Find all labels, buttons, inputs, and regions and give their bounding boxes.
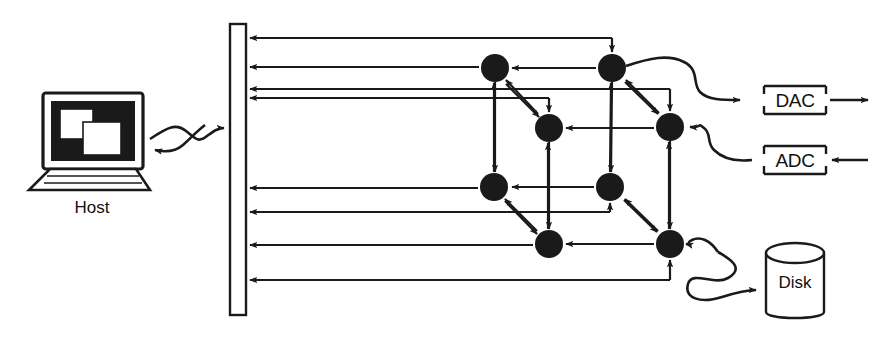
mesh-node-n5 (480, 173, 508, 201)
mesh-edges-bottom (505, 187, 658, 244)
mesh-node-n2 (598, 54, 626, 82)
host-label: Host (75, 198, 110, 217)
mesh-node-n4 (656, 113, 684, 141)
mesh-node-n8 (656, 230, 684, 258)
host-backplane-link (150, 125, 224, 151)
mesh-node-n7 (535, 230, 563, 258)
disk-link (686, 239, 756, 300)
dac-link (626, 58, 740, 100)
dac-label: DAC (775, 90, 814, 111)
diagram-canvas: Host (0, 0, 873, 346)
bus-backplane-icon (230, 24, 246, 315)
adc-label: ADC (775, 150, 814, 171)
host-computer-icon (29, 93, 150, 190)
disk-label: Disk (778, 273, 812, 292)
mesh-node-n6 (596, 173, 624, 201)
mesh-node-n3 (535, 114, 563, 142)
mesh-node-n1 (481, 54, 509, 82)
mesh-edges-vertical (494, 82, 670, 229)
adc-link (690, 125, 752, 160)
network-architecture-diagram: Host (0, 0, 873, 346)
